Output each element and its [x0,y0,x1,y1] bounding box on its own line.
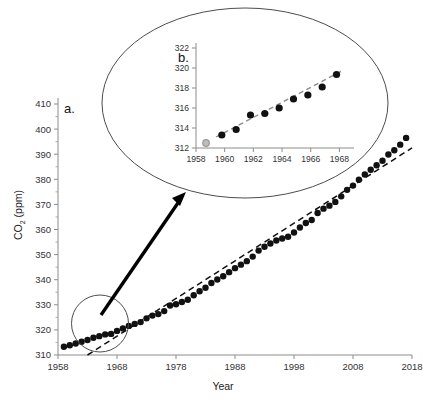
data-point-main [191,292,197,298]
data-point-main [373,162,379,168]
data-point-main [132,321,138,327]
data-point-main [214,276,220,282]
data-point-main [267,240,273,246]
x-tick-label-inset: 1958 [186,154,205,164]
panel-b-label: b. [178,50,189,65]
data-point-inset [261,110,268,117]
x-tick-label-main: 1988 [224,361,245,372]
data-point-main [61,344,67,350]
data-point-main [114,328,120,334]
data-point-main [202,285,208,291]
data-point-main [108,331,114,337]
data-point-main [303,220,309,226]
x-tick-label-main: 1958 [47,361,68,372]
y-tick-label-inset: 312 [175,143,190,153]
data-point-main [161,308,167,314]
data-point-main [273,237,279,243]
data-point-main [173,301,179,307]
data-point-main [137,319,143,325]
figure-canvas: 310320330340350360370380390400410 195819… [0,0,423,404]
data-point-main [120,325,126,331]
y-tick-label-inset: 314 [175,123,190,133]
data-point-main [196,288,202,294]
panel-b-inset-chart: 312314316318320322 195819601962196419661… [102,8,388,198]
data-point-inset [290,95,297,102]
figure-keeling-curve: 310320330340350360370380390400410 195819… [0,0,423,404]
y-tick-label-main: 410 [35,98,51,109]
y-axis-title-text: CO [12,224,24,240]
data-point-main [232,265,238,271]
data-point-inset [276,104,283,111]
y-tick-label-main: 390 [35,149,51,160]
data-point-main [309,217,315,223]
y-tick-label-main: 310 [35,349,51,360]
data-point-main [250,253,256,259]
data-point-main [143,315,149,321]
data-point-main [314,210,320,216]
data-point-main [167,302,173,308]
data-point-main [356,177,362,183]
data-point-main [291,229,297,235]
x-axis-title-main: Year [212,380,234,392]
x-tick-label-inset: 1960 [215,154,234,164]
data-point-inset-first [203,140,210,147]
y-axis-title-unit: (ppm) [12,190,24,220]
data-point-inset [233,126,240,133]
data-point-main [102,331,108,337]
data-point-main [261,244,267,250]
data-point-main [179,299,185,305]
data-point-main [84,337,90,343]
data-point-main [391,147,397,153]
y-axis-title-main: CO2 (ppm) [12,190,26,240]
data-point-main [279,235,285,241]
x-tick-label-main: 1998 [283,361,304,372]
y-tick-label-main: 360 [35,224,51,235]
y-tick-label-main: 350 [35,249,51,260]
data-point-main [208,280,214,286]
x-tick-label-main: 2008 [342,361,363,372]
data-point-main [90,334,96,340]
data-point-main [285,234,291,240]
data-point-main [220,273,226,279]
data-point-main [362,171,368,177]
y-tick-label-inset: 316 [175,103,190,113]
y-tick-label-main: 380 [35,174,51,185]
x-tick-label-inset: 1968 [330,154,349,164]
y-tick-label-main: 330 [35,299,51,310]
data-point-main [379,158,385,164]
data-point-main [344,187,350,193]
data-point-main [67,342,73,348]
panel-a-label: a. [64,101,75,116]
data-point-main [385,151,391,157]
x-tick-label-main: 2018 [401,361,422,372]
data-point-inset [247,111,254,118]
y-tick-label-main: 320 [35,324,51,335]
y-tick-label-inset: 318 [175,83,190,93]
data-point-main [332,199,338,205]
data-point-main [155,311,161,317]
data-point-main [320,205,326,211]
inset-ellipse-frame [102,8,388,198]
data-point-main [403,135,409,141]
data-point-main [297,224,303,230]
data-point-inset [218,131,225,138]
data-point-main [338,193,344,199]
x-tick-label-inset: 1964 [272,154,291,164]
data-point-main [226,269,232,275]
data-point-main [96,333,102,339]
svg-text:CO2 (ppm): CO2 (ppm) [12,190,26,240]
data-point-main [255,247,261,253]
data-point-main [78,338,84,344]
data-point-inset [333,71,340,78]
x-tick-label-inset: 1966 [301,154,320,164]
data-point-main [326,202,332,208]
data-point-main [185,297,191,303]
data-point-main [244,258,250,264]
data-point-main [238,261,244,267]
y-tick-label-main: 400 [35,124,51,135]
x-tick-label-inset: 1962 [244,154,263,164]
y-tick-label-main: 340 [35,274,51,285]
data-point-main [149,312,155,318]
x-tick-label-main: 1968 [106,361,127,372]
data-point-inset [304,91,311,98]
